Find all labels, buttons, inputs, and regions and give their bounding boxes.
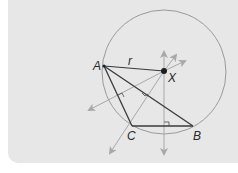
label-a: A — [92, 59, 101, 73]
label-c: C — [127, 129, 136, 143]
point-x — [161, 68, 167, 74]
point-a — [103, 65, 106, 68]
bisector-ac-lower — [89, 71, 164, 110]
label-r: r — [128, 54, 133, 68]
label-x: X — [167, 71, 177, 85]
label-b: B — [193, 129, 201, 143]
bisector-ab-lower — [110, 71, 164, 153]
radius-ax — [104, 66, 164, 71]
geometry-diagram: A r X C B — [0, 0, 238, 173]
